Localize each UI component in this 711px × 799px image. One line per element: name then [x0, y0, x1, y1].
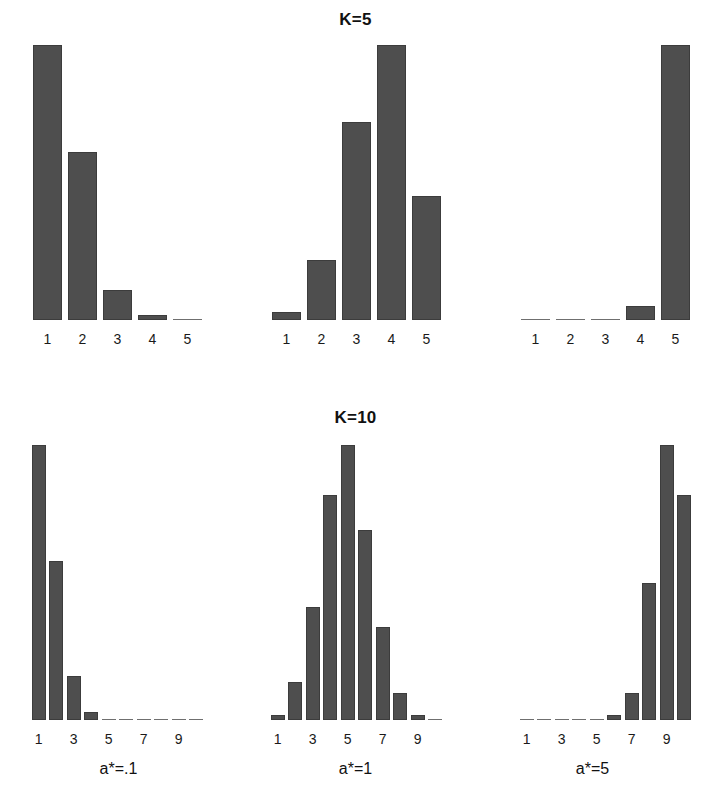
plot-area [30, 445, 205, 720]
bar-slot [658, 445, 676, 720]
bar-slot [518, 45, 553, 320]
bar [67, 676, 81, 720]
bar [33, 45, 62, 320]
row-k10: K=10 13579 13579 13579 a*=.1 a*=1 a*=5 [0, 400, 711, 799]
bar [103, 290, 132, 320]
bar-slot [588, 445, 606, 720]
bar [288, 682, 302, 721]
x-tick-label: 3 [65, 726, 83, 752]
x-tick-blank [83, 726, 101, 752]
bar [137, 719, 151, 720]
row-title-k10: K=10 [0, 408, 711, 428]
bar [642, 583, 656, 721]
bar [377, 45, 406, 320]
plot-area [30, 45, 205, 320]
panel-k5-a5: 12345 [474, 45, 711, 355]
panel-k10-a5: 13579 [474, 445, 711, 755]
x-tick-blank [188, 726, 206, 752]
x-tick-label: 5 [409, 326, 444, 352]
x-tick-blank [606, 726, 624, 752]
panels-k5: 12345 12345 12345 [0, 45, 711, 355]
bar [172, 719, 186, 720]
bar-slot [606, 445, 624, 720]
bar-slot [658, 45, 693, 320]
panel-k10-a01: 13579 [0, 445, 237, 755]
bar [32, 445, 46, 720]
x-tick-label: 9 [409, 726, 427, 752]
panel-k5-a1: 12345 [237, 45, 474, 355]
bar [625, 693, 639, 721]
plot-area [269, 445, 444, 720]
x-tick-labels: 13579 [30, 726, 205, 752]
bar-slot [571, 445, 589, 720]
bar-slot [30, 445, 48, 720]
bar-slot [170, 445, 188, 720]
x-tick-label: 5 [100, 726, 118, 752]
panel-k5-a01: 12345 [0, 45, 237, 355]
bar-slot [623, 445, 641, 720]
x-tick-label: 9 [170, 726, 188, 752]
bar [272, 312, 301, 320]
panels-k10: 13579 13579 13579 [0, 445, 711, 755]
bar [84, 712, 98, 720]
bar-slot [409, 445, 427, 720]
bar-slot [269, 45, 304, 320]
bar-slot [118, 445, 136, 720]
bar-slot [518, 445, 536, 720]
bar-slot [339, 45, 374, 320]
bar [102, 719, 116, 720]
bar-slot [48, 445, 66, 720]
plot-area [269, 45, 444, 320]
bar-slot [304, 445, 322, 720]
bar-slot [100, 45, 135, 320]
x-tick-blank [427, 726, 445, 752]
bar [49, 561, 63, 721]
bar [411, 715, 425, 721]
bar-slot [357, 445, 375, 720]
bar-slot [269, 445, 287, 720]
bar [138, 315, 167, 321]
x-tick-labels: 12345 [269, 326, 444, 352]
bar-slot [374, 45, 409, 320]
bar-slot [322, 445, 340, 720]
bar [556, 319, 585, 320]
bar-slot [100, 445, 118, 720]
x-tick-blank [571, 726, 589, 752]
bar [306, 607, 320, 720]
bar [591, 319, 620, 320]
bar [521, 319, 550, 320]
x-tick-label: 1 [30, 326, 65, 352]
x-tick-label: 1 [269, 726, 287, 752]
panel-k10-a1: 13579 [237, 445, 474, 755]
bar [376, 627, 390, 721]
bar-slot [374, 445, 392, 720]
bar-slot [304, 45, 339, 320]
x-tick-label: 1 [30, 726, 48, 752]
x-tick-label: 2 [65, 326, 100, 352]
bar [307, 260, 336, 321]
bar [661, 45, 690, 320]
x-tick-label: 1 [518, 326, 553, 352]
bar-slot [553, 445, 571, 720]
bar [358, 530, 372, 720]
bar-slot [409, 45, 444, 320]
bar-slot [676, 445, 694, 720]
x-tick-blank [322, 726, 340, 752]
bar-slot [153, 445, 171, 720]
bar [341, 445, 355, 720]
row-title-k5: K=5 [0, 10, 711, 30]
bar [660, 445, 674, 720]
bar [520, 719, 534, 720]
bar [271, 715, 285, 721]
bar [173, 319, 202, 320]
bar-slot [65, 45, 100, 320]
bar-slot [641, 445, 659, 720]
bar [412, 196, 441, 320]
x-tick-blank [357, 726, 375, 752]
bar-slot [30, 45, 65, 320]
plot-area [518, 45, 693, 320]
bar [189, 719, 203, 720]
x-tick-blank [118, 726, 136, 752]
histogram-grid-figure: K=5 12345 12345 12345 K=10 13579 [0, 0, 711, 799]
x-tick-label: 3 [588, 326, 623, 352]
